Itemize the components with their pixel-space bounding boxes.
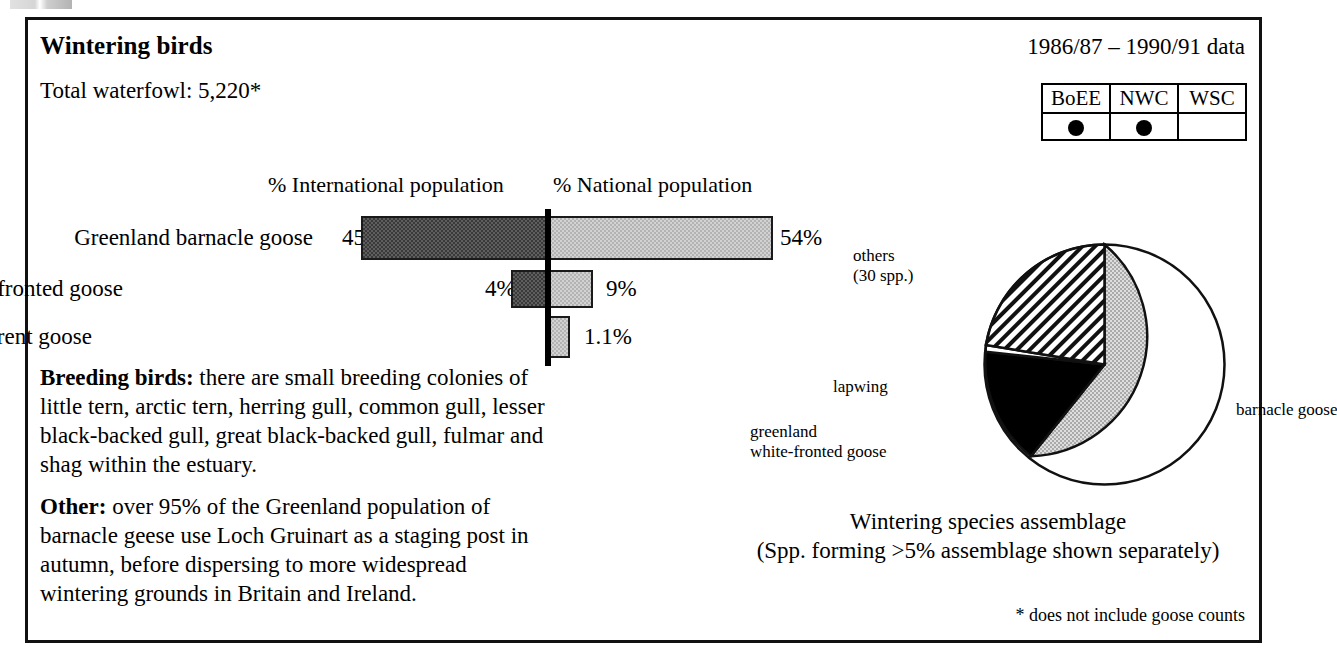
survey-mark-nwc [1110,113,1178,140]
date-range-label: 1986/87 – 1990/91 data [1027,34,1245,60]
bar-national-1 [548,270,593,308]
survey-table-header-row: BoEE NWC WSC [1042,84,1246,113]
pie-label-greenland-white-fronted-goose: greenland white-fronted goose [750,422,886,462]
bar-label-light-bellied-brent-goose: light-bellied brent goose [0,324,92,350]
survey-table: BoEE NWC WSC [1041,83,1247,141]
wintering-species-pie-chart: others (30 spp.) lapwing greenland white… [728,215,1248,505]
breeding-birds-paragraph: Breeding birds: there are small breeding… [40,363,545,479]
bar-national-2 [548,316,570,358]
survey-mark-wsc [1178,113,1246,140]
survey-column-boee: BoEE [1042,84,1110,113]
pie-slice-others [986,244,1105,364]
pie-caption-title: Wintering species assemblage [718,507,1258,536]
total-waterfowl-label: Total waterfowl: 5,220* [40,78,261,104]
axis-heading-international: % International population [268,172,504,198]
breeding-birds-label: Breeding birds: [40,365,194,390]
survey-mark-boee [1042,113,1110,140]
pie-label-gwfg-line1: greenland [750,422,886,442]
page-title: Wintering birds [40,32,213,60]
survey-column-nwc: NWC [1110,84,1178,113]
pie-graphic [982,242,1227,487]
bar-label-greenland-barnacle-goose: Greenland barnacle goose [74,225,313,251]
pie-label-others: others (30 spp.) [853,246,913,286]
bar-value-national-1: 9% [606,276,637,302]
pie-label-gwfg-line2: white-fronted goose [750,442,886,462]
bar-label-greenland-white-fronted-goose: Greenland white-fronted goose [0,276,123,302]
pie-svg [982,242,1227,487]
other-paragraph: Other: over 95% of the Greenland populat… [40,492,545,608]
chart-center-axis [545,209,551,366]
pie-label-lapwing: lapwing [833,377,888,397]
filled-dot-icon [1068,120,1084,136]
other-text: over 95% of the Greenland population of … [40,494,529,606]
bar-international-1 [511,270,548,308]
scan-artifact [10,0,72,9]
empty-dot-icon [1204,120,1220,136]
pie-caption: Wintering species assemblage (Spp. formi… [718,507,1258,565]
pie-label-barnacle-goose: barnacle goose [1236,400,1337,420]
bar-national-0 [548,216,773,260]
axis-heading-national: % National population [553,172,752,198]
bar-international-0 [361,216,548,260]
survey-table-marks-row [1042,113,1246,140]
bar-value-national-2: 1.1% [584,324,632,350]
filled-dot-icon [1136,120,1152,136]
pie-label-others-line1: others [853,246,913,266]
other-label: Other: [40,494,106,519]
survey-column-wsc: WSC [1178,84,1246,113]
footnote: * does not include goose counts [1016,605,1245,626]
figure-frame: Wintering birds 1986/87 – 1990/91 data T… [25,17,1262,643]
pie-caption-subtitle: (Spp. forming >5% assemblage shown separ… [718,536,1258,565]
pie-label-others-line2: (30 spp.) [853,266,913,286]
